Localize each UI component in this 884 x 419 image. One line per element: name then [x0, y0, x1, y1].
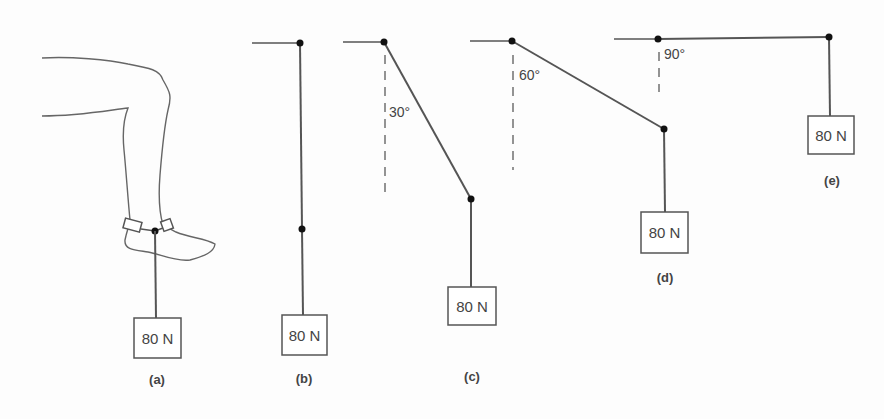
- weight-label-c: 80 N: [456, 298, 488, 315]
- angle-label-d: 60°: [519, 67, 540, 83]
- rope-d: [664, 129, 665, 212]
- caption-e: (e): [824, 173, 840, 188]
- weight-label-d: 80 N: [649, 224, 681, 241]
- knee-joint-dot-e: [655, 36, 662, 43]
- ankle-joint-dot-b: [299, 226, 306, 233]
- diagram-svg: 80 N (a) 80 N (b) 30° 80 N (c) 60° 80: [0, 0, 884, 419]
- ankle-joint-dot-c: [468, 196, 475, 203]
- panel-c: 30° 80 N (c): [343, 39, 496, 385]
- panel-b: 80 N (b): [252, 40, 327, 387]
- weight-label-b: 80 N: [289, 327, 321, 344]
- caption-d: (d): [657, 270, 674, 285]
- ankle-strap-right-icon: [161, 219, 174, 232]
- caption-b: (b): [296, 371, 313, 386]
- panel-e: 90° 80 N (e): [614, 34, 854, 189]
- caption-a: (a): [149, 372, 165, 387]
- knee-joint-dot-b: [297, 40, 304, 47]
- caption-c: (c): [464, 369, 480, 384]
- ankle-strap-left-icon: [123, 218, 142, 232]
- weight-label-e: 80 N: [815, 127, 847, 144]
- angle-label-e: 90°: [664, 46, 685, 62]
- rope-a: [155, 231, 156, 318]
- leg-segment-d: [512, 41, 664, 129]
- diagram-canvas: 80 N (a) 80 N (b) 30° 80 N (c) 60° 80: [0, 0, 884, 419]
- panel-a: 80 N (a): [42, 57, 215, 387]
- rope-e: [829, 37, 830, 116]
- panel-d: 60° 80 N (d): [470, 38, 688, 286]
- knee-joint-dot-c: [381, 39, 388, 46]
- weight-label-a: 80 N: [142, 330, 174, 347]
- angle-label-c: 30°: [389, 104, 410, 120]
- leg-segment-b: [300, 43, 302, 229]
- leg-segment-e: [658, 37, 829, 39]
- leg-segment-c: [384, 42, 471, 199]
- rope-b: [302, 229, 303, 315]
- knee-joint-dot-d: [509, 38, 516, 45]
- ankle-joint-dot-e: [826, 34, 833, 41]
- ankle-joint-dot-d: [661, 126, 668, 133]
